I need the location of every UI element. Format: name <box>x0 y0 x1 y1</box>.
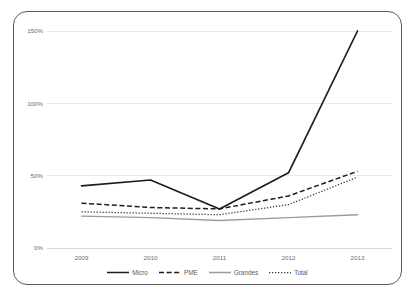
y-tick-label: 50% <box>31 172 44 179</box>
legend-item-total[interactable]: Total <box>269 269 308 276</box>
plot-svg: 0%50%100%150% 20092010201120122013 <box>0 0 415 296</box>
legend-label: Micro <box>132 269 148 276</box>
x-tick-label: 2010 <box>144 254 158 261</box>
x-tick-label: 2013 <box>351 254 365 261</box>
legend-swatch-pme-icon <box>159 269 181 276</box>
x-tick-label: 2012 <box>282 254 296 261</box>
legend-swatch-grandes-icon <box>209 269 231 276</box>
legend-item-grandes[interactable]: Grandes <box>209 269 259 276</box>
y-tick-label: 0% <box>34 244 43 251</box>
line-chart: 0%50%100%150% 20092010201120122013 Micro… <box>0 0 415 296</box>
series-line-grandes <box>82 215 358 221</box>
legend-label: Total <box>294 269 308 276</box>
series-line-pme <box>82 171 358 209</box>
legend-swatch-total-icon <box>269 269 291 276</box>
x-axis-tick-labels: 20092010201120122013 <box>75 254 365 261</box>
y-axis-tick-labels: 0%50%100%150% <box>27 27 43 251</box>
legend-item-micro[interactable]: Micro <box>107 269 148 276</box>
legend-label: PME <box>184 269 198 276</box>
series-line-micro <box>82 31 358 209</box>
x-tick-label: 2011 <box>213 254 227 261</box>
y-tick-label: 150% <box>27 27 43 34</box>
legend-swatch-micro-icon <box>107 269 129 276</box>
data-series-layer <box>82 31 358 221</box>
y-tick-label: 100% <box>27 100 43 107</box>
legend-label: Grandes <box>234 269 259 276</box>
legend-item-pme[interactable]: PME <box>159 269 198 276</box>
chart-legend: MicroPMEGrandesTotal <box>0 264 415 280</box>
x-tick-label: 2009 <box>75 254 89 261</box>
